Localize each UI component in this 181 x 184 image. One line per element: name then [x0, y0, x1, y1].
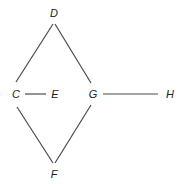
- node-label-c: C: [12, 89, 20, 100]
- node-label-d: D: [50, 8, 58, 19]
- graph-diagram: D C E G H F: [0, 0, 181, 184]
- edge-c-f: [17, 107, 53, 163]
- node-label-g: G: [89, 89, 98, 100]
- node-label-e: E: [51, 89, 58, 100]
- edge-g-f: [55, 105, 91, 163]
- node-label-f: F: [51, 169, 58, 180]
- edge-d-c: [16, 24, 53, 82]
- node-label-h: H: [166, 89, 174, 100]
- edge-d-g: [55, 24, 91, 83]
